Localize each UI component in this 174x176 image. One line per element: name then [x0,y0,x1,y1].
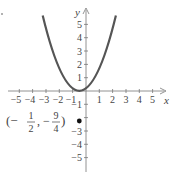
svg-text:, −: , − [37,114,50,128]
svg-text:): ) [61,113,65,128]
svg-text:−5: −5 [11,94,22,105]
svg-text:1: 1 [97,94,102,105]
svg-text:2: 2 [29,123,34,134]
svg-text:4: 4 [77,32,82,43]
svg-text:4: 4 [137,94,142,105]
x-tick-labels: −5 −4 −3 −2 −1 1 2 3 4 5 [11,94,155,105]
svg-text:1: 1 [29,110,34,121]
svg-text:3: 3 [77,46,82,57]
svg-text:−4: −4 [71,139,82,150]
svg-text:−1: −1 [71,99,82,110]
svg-text:2: 2 [110,94,115,105]
y-axis-label: y [74,6,80,18]
svg-text:9: 9 [54,110,59,121]
parabola-chart: −5 −4 −3 −2 −1 1 2 3 4 5 5 4 3 2 1 −1 −3… [0,0,174,176]
stray-dot [1,13,3,15]
svg-text:5: 5 [77,19,82,30]
svg-text:(−: (− [6,113,18,128]
svg-text:3: 3 [124,94,129,105]
svg-text:−4: −4 [25,94,36,105]
vertex-label: (− 1 2 , − 9 4 ) [6,110,65,134]
svg-text:5: 5 [150,94,155,105]
svg-text:1: 1 [77,72,82,83]
svg-text:−3: −3 [39,94,50,105]
svg-text:−5: −5 [71,152,82,163]
svg-text:4: 4 [54,123,59,134]
svg-text:2: 2 [77,59,82,70]
vertex-point [77,119,82,124]
x-axis-label: x [163,94,169,106]
svg-text:−2: −2 [53,94,64,105]
svg-text:−3: −3 [71,126,82,137]
